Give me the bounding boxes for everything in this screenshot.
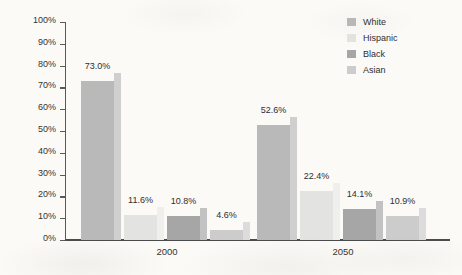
bar: 73.0% — [81, 81, 114, 240]
y-axis-tick-label: 70% — [38, 80, 56, 90]
y-axis-tick-label: 80% — [38, 59, 56, 69]
y-axis-tick-label: 30% — [38, 168, 56, 178]
y-axis-tick: 30% — [60, 175, 65, 176]
bar: 10.8% — [167, 216, 200, 240]
bar-value-label: 11.6% — [128, 195, 153, 205]
legend-item[interactable]: Asian — [347, 62, 398, 77]
bar-front-face — [300, 191, 333, 240]
y-axis-tick-label: 20% — [38, 189, 56, 199]
bar: 52.6% — [257, 125, 290, 240]
bar-value-label: 73.0% — [85, 61, 111, 71]
y-axis-tick: 40% — [60, 153, 65, 154]
chart-legend: WhiteHispanicBlackAsian — [347, 14, 398, 78]
y-axis-tick-label: 100% — [33, 15, 56, 25]
y-axis-line — [65, 22, 66, 240]
y-axis-tick: 80% — [60, 66, 65, 67]
bar: 14.1% — [343, 209, 376, 240]
chart-page: Percentage of U.S. Workforce 100%90%80%7… — [0, 0, 462, 275]
y-axis-tick-label: 90% — [38, 37, 56, 47]
bar-side-face — [243, 222, 250, 240]
bar: 22.4% — [300, 191, 333, 240]
bar-side-face — [419, 208, 426, 240]
bar-value-label: 52.6% — [261, 105, 287, 115]
y-axis-tick: 0% — [60, 240, 65, 241]
bar: 4.6% — [210, 230, 243, 240]
legend-label: Asian — [363, 65, 386, 75]
x-axis-group-label: 2000 — [156, 246, 177, 257]
bar-value-label: 4.6% — [216, 210, 237, 220]
legend-label: Black — [363, 49, 385, 59]
bar: 10.9% — [386, 216, 419, 240]
legend-label: Hispanic — [363, 33, 398, 43]
bar-value-label: 14.1% — [347, 189, 373, 199]
bar-value-label: 22.4% — [304, 171, 330, 181]
bar-side-face — [114, 73, 121, 240]
legend-item[interactable]: White — [347, 14, 398, 29]
legend-swatch-icon — [347, 34, 356, 42]
bar-value-label: 10.8% — [171, 196, 197, 206]
legend-swatch-icon — [347, 66, 356, 74]
bar-front-face — [386, 216, 419, 240]
y-axis-tick: 70% — [60, 87, 65, 88]
bar-front-face — [124, 215, 157, 240]
bar-front-face — [210, 230, 243, 240]
y-axis-tick-label: 60% — [38, 102, 56, 112]
bar-front-face — [167, 216, 200, 240]
y-axis-tick: 10% — [60, 218, 65, 219]
y-axis-tick: 60% — [60, 109, 65, 110]
legend-swatch-icon — [347, 50, 356, 58]
bar-side-face — [333, 183, 340, 240]
y-axis-tick-label: 10% — [38, 211, 56, 221]
y-axis-tick-label: 0% — [43, 233, 56, 243]
bar-front-face — [343, 209, 376, 240]
y-axis-tick: 20% — [60, 196, 65, 197]
legend-item[interactable]: Black — [347, 46, 398, 61]
bar-side-face — [376, 201, 383, 240]
bar-side-face — [290, 117, 297, 240]
bar-front-face — [81, 81, 114, 240]
legend-swatch-icon — [347, 18, 356, 26]
y-axis-tick: 90% — [60, 44, 65, 45]
y-axis-tick: 100% — [60, 22, 65, 23]
bar: 11.6% — [124, 215, 157, 240]
bar-side-face — [157, 207, 164, 240]
bar-front-face — [257, 125, 290, 240]
y-axis-tick-label: 40% — [38, 146, 56, 156]
bar-value-label: 10.9% — [390, 196, 416, 206]
x-axis-group-label: 2050 — [332, 246, 353, 257]
y-axis-tick: 50% — [60, 131, 65, 132]
bar-side-face — [200, 208, 207, 240]
legend-item[interactable]: Hispanic — [347, 30, 398, 45]
legend-label: White — [363, 17, 386, 27]
y-axis-tick-label: 50% — [38, 124, 56, 134]
